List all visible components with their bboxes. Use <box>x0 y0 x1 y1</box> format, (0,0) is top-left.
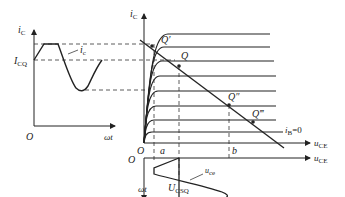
ic-leader <box>68 50 78 54</box>
uce-waveform <box>154 158 227 197</box>
right-origin: O <box>137 145 144 156</box>
curve-1 <box>144 34 270 143</box>
tick-b: b <box>232 145 237 156</box>
q-prime-point <box>150 44 154 48</box>
right-y-label: iC <box>130 8 138 21</box>
q-label: Q <box>181 50 189 61</box>
uce-leader <box>190 174 203 180</box>
q-triple-prime-label: Q‴ <box>252 108 264 119</box>
ib-zero-label: iB=0 <box>285 125 302 137</box>
q-prime-label: Q′ <box>161 34 171 45</box>
bottom-y-label: ωt <box>138 184 147 194</box>
bottom-x-label: uCE <box>314 153 327 165</box>
tick-a: a <box>160 145 165 156</box>
left-y-label: iC <box>18 24 26 37</box>
right-x-label: uCE <box>314 138 327 150</box>
left-origin: O <box>26 131 33 142</box>
bottom-origin: O <box>128 154 135 165</box>
bjt-output-diagram: iC ICQ ic O ωt iC Q′ Q Q″ Q‴ iB=0 uCE O … <box>0 0 345 197</box>
curve-3 <box>144 61 274 143</box>
ic-waveform <box>34 44 102 91</box>
icq-label: ICQ <box>13 55 27 68</box>
curve-ib0 <box>144 132 283 143</box>
q-triple-prime-point <box>251 120 255 124</box>
uce-curve-label: uce <box>205 166 215 177</box>
q-double-prime-label: Q″ <box>228 91 240 102</box>
left-x-label: ωt <box>104 132 113 142</box>
ic-curve-label: ic <box>80 44 86 57</box>
